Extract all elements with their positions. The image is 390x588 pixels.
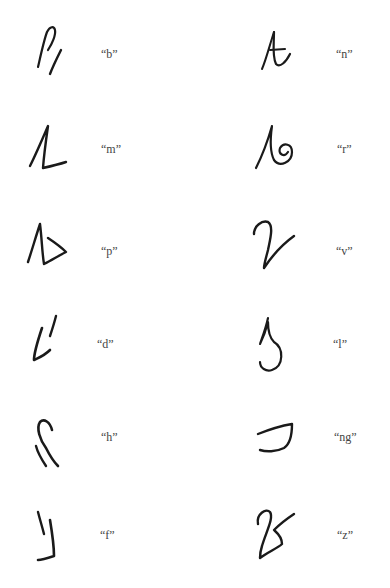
label-d: “d”: [97, 337, 114, 351]
glyph-h-icon: [28, 410, 78, 470]
glyph-l-icon: [254, 314, 304, 374]
glyph-z-icon: [252, 506, 302, 566]
label-m: “m”: [101, 142, 121, 156]
glyph-b-icon: [28, 22, 78, 82]
label-l: “l”: [333, 337, 347, 351]
glyph-ng-icon: [252, 414, 302, 474]
label-h: “h”: [101, 430, 118, 444]
label-z: “z”: [337, 528, 353, 542]
glyph-p-icon: [26, 218, 76, 278]
label-v: “v”: [336, 244, 353, 258]
label-r: “r”: [337, 142, 352, 156]
label-b: “b”: [101, 47, 118, 61]
label-ng: “ng”: [334, 430, 357, 444]
label-n: “n”: [336, 47, 353, 61]
glyph-f-icon: [30, 506, 80, 566]
glyph-d-icon: [28, 312, 78, 372]
glyph-n-icon: [252, 24, 302, 84]
label-p: “p”: [101, 244, 118, 258]
label-f: “f”: [100, 528, 115, 542]
glyph-r-icon: [250, 118, 300, 178]
glyph-m-icon: [26, 118, 76, 178]
glyph-v-icon: [250, 218, 300, 278]
